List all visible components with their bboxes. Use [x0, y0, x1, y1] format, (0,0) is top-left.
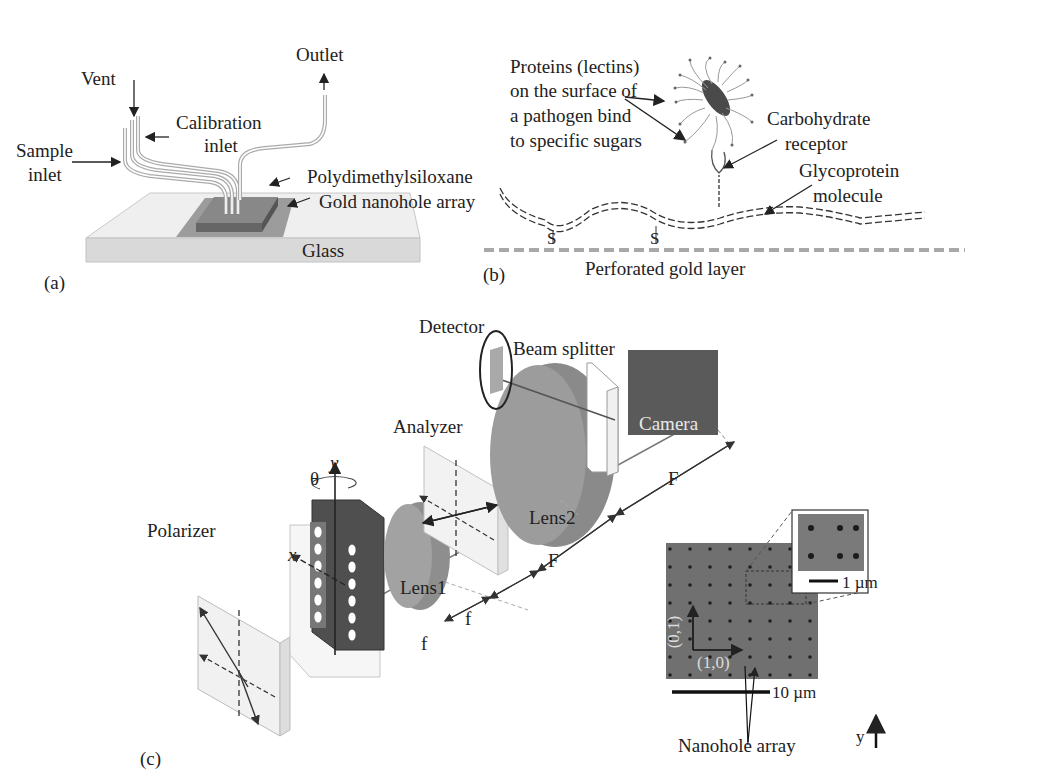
label-x-axis: x	[288, 544, 296, 565]
sample-stage	[290, 463, 384, 677]
label-detector: Detector	[419, 316, 484, 337]
label-glass: Glass	[302, 240, 344, 261]
label-vent: Vent	[81, 68, 116, 89]
glass-slide-front	[86, 238, 420, 262]
label-direction-10: (1,0)	[697, 653, 730, 673]
label-proteins-line3: a pathogen bind	[510, 105, 631, 126]
label-calibration-inlet-line2: inlet	[204, 135, 238, 156]
label-scale-1um: 1 µm	[842, 572, 878, 593]
sem-inset	[798, 514, 864, 571]
panel-tag-b: (b)	[483, 264, 505, 285]
label-sample-inlet-line1: Sample	[16, 140, 73, 161]
panel-tag-c: (c)	[140, 748, 161, 769]
label-glycoprotein-line2: molecule	[813, 185, 883, 206]
label-f-upper: f	[465, 608, 471, 629]
label-glycoprotein-line1: Glycoprotein	[799, 160, 899, 181]
label-lens2: Lens2	[529, 507, 575, 528]
label-perforated-gold-layer: Perforated gold layer	[585, 258, 745, 279]
label-s-bond-2: S	[650, 228, 659, 249]
label-proteins-line1: Proteins (lectins)	[510, 56, 639, 77]
label-beam-splitter: Beam splitter	[513, 338, 615, 359]
label-calibration-inlet-line1: Calibration	[176, 112, 261, 133]
detector	[480, 331, 512, 409]
label-f-lower: f	[421, 633, 427, 654]
label-theta: θ	[310, 468, 319, 489]
glycoprotein-arrow	[765, 185, 812, 214]
label-outlet: Outlet	[296, 44, 344, 65]
sem-image	[666, 510, 876, 748]
label-carbohydrate-line1: Carbohydrate	[767, 108, 870, 129]
pdms-arrow	[270, 178, 290, 185]
label-camera: Camera	[639, 413, 698, 435]
label-gold-nanohole-array: Gold nanohole array	[319, 191, 475, 212]
label-analyzer: Analyzer	[393, 416, 463, 437]
label-proteins-line2: on the surface of	[510, 80, 637, 101]
label-y-indicator: y	[856, 726, 865, 747]
label-direction-01: (0,1)	[664, 616, 684, 649]
label-F-lower: F	[548, 550, 559, 571]
label-y-axis: y	[330, 452, 338, 473]
label-polarizer: Polarizer	[147, 520, 216, 541]
label-carbohydrate-line2: receptor	[785, 133, 847, 154]
polarizer	[198, 596, 290, 736]
label-proteins-line4: to specific sugars	[510, 130, 642, 151]
pdms-front	[196, 223, 262, 232]
label-sample-inlet-line2: inlet	[28, 164, 62, 185]
label-lens1: Lens1	[400, 577, 446, 598]
label-F-upper: F	[668, 468, 679, 489]
carbohydrate-receptor	[712, 150, 726, 173]
label-nanohole-array: Nanohole array	[678, 735, 796, 756]
label-scale-10um: 10 µm	[772, 682, 816, 703]
panel-tag-a: (a)	[44, 272, 65, 293]
label-pdms: Polydimethylsiloxane	[307, 166, 473, 187]
label-s-bond-1: S	[547, 228, 556, 249]
